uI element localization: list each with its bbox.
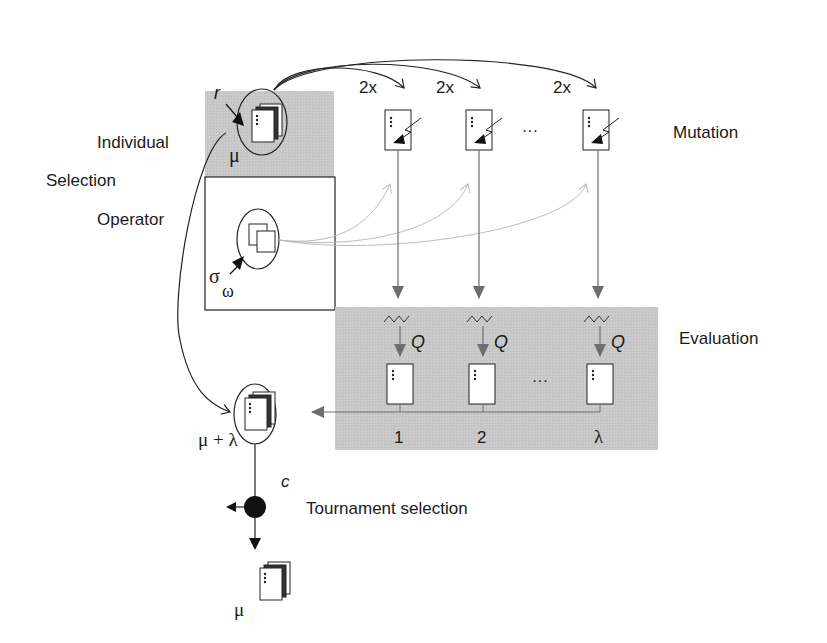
tournament-selection-label: Tournament selection [306, 499, 468, 518]
multiplier-2: 2x [436, 78, 454, 97]
multiplier-3: 2x [553, 78, 571, 97]
offspring-index-lambda: λ [594, 426, 604, 447]
mutation-ellipsis: ··· [522, 122, 538, 139]
evaluation-ellipsis: ··· [532, 372, 548, 389]
strategy-params [237, 209, 279, 269]
multiplier-1: 2x [359, 78, 377, 97]
to-evaluation-arrows [398, 150, 598, 298]
tournament-flow [226, 444, 266, 550]
quality-label-3: Q [611, 332, 625, 352]
mutated-offspring-1 [385, 110, 421, 150]
mutated-offspring-3 [583, 110, 619, 150]
operator-label: Operator [97, 210, 164, 229]
mu-parent-label: μ [229, 144, 240, 167]
combined-population [234, 384, 276, 444]
r-label: r [214, 83, 221, 103]
next-generation [260, 562, 290, 600]
quality-label-1: Q [411, 332, 425, 352]
mu-next-label: μ [234, 599, 244, 620]
individual-label: Individual [97, 133, 169, 152]
evaluation-label: Evaluation [679, 329, 758, 348]
selection-label: Selection [46, 171, 116, 190]
offspring-index-2: 2 [477, 428, 486, 447]
mutated-offspring-2 [466, 110, 502, 150]
mutation-arcs [274, 60, 596, 90]
quality-label-2: Q [494, 332, 508, 352]
es-diagram-canvas: r μ Individual Selection Operator σ ω 2x… [0, 0, 827, 643]
c-label: c [281, 472, 290, 491]
mutation-label: Mutation [673, 123, 738, 142]
sigma-label: σ [209, 265, 220, 287]
offspring-index-1: 1 [394, 428, 403, 447]
omega-label: ω [222, 281, 234, 301]
mu-plus-lambda-label: μ + λ [198, 429, 238, 450]
